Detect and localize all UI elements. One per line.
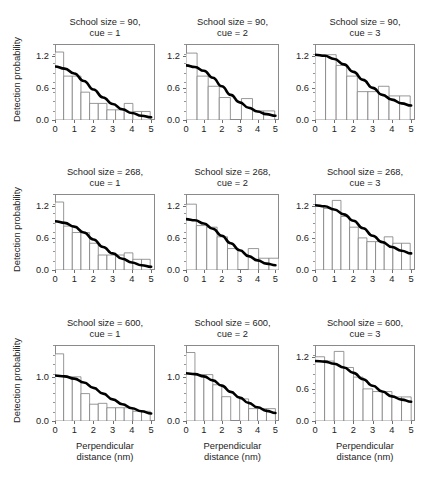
- panel-title-line1: School size = 600,: [55, 318, 155, 329]
- y-minor-tick: [313, 261, 315, 262]
- y-minor-tick: [184, 82, 186, 83]
- panel-title-line2: cue = 3: [315, 28, 415, 39]
- y-minor-tick: [184, 402, 186, 403]
- x-tick-label: 2: [91, 425, 96, 435]
- x-tick-mark: [74, 270, 75, 273]
- y-tick-label: 0.6: [275, 384, 309, 394]
- y-minor-tick: [313, 213, 315, 214]
- panel-title-line2: cue = 1: [55, 178, 155, 189]
- x-tick-label: 5: [409, 274, 414, 284]
- panel-school-600-cue-3: School size = 600,cue = 30.00.61.2012345: [275, 318, 423, 447]
- panel-title-line2: cue = 2: [186, 178, 279, 189]
- x-tick-mark: [258, 120, 259, 123]
- x-tick-mark: [392, 120, 393, 123]
- panel-title: School size = 268,cue = 1: [55, 167, 155, 189]
- y-minor-tick: [53, 54, 55, 55]
- x-tick-label: 4: [389, 274, 394, 284]
- panel-title: School size = 600,cue = 3: [315, 318, 415, 340]
- x-tick-label: 1: [332, 124, 337, 134]
- detection-function-curve: [315, 194, 415, 270]
- plot-area: [186, 194, 279, 270]
- panel-title: School size = 600,cue = 2: [186, 318, 279, 340]
- y-tick-label: 0.0: [146, 115, 180, 125]
- x-tick-mark: [74, 421, 75, 424]
- x-tick-mark: [353, 270, 354, 273]
- y-minor-tick: [313, 364, 315, 365]
- y-minor-tick: [184, 213, 186, 214]
- y-axis-label: Detection probability: [11, 187, 22, 272]
- y-minor-tick: [184, 261, 186, 262]
- curve-path: [315, 55, 411, 106]
- x-tick-label: 5: [409, 124, 414, 134]
- x-tick-mark: [353, 421, 354, 424]
- y-minor-tick: [184, 393, 186, 394]
- y-minor-tick: [53, 242, 55, 243]
- x-tick-mark: [334, 421, 335, 424]
- x-tick-mark: [258, 270, 259, 273]
- y-minor-tick: [313, 393, 315, 394]
- y-minor-tick: [184, 374, 186, 375]
- x-tick-label: 4: [255, 124, 260, 134]
- y-tick-label: 0.0: [146, 416, 180, 426]
- panel-school-600-cue-2: School size = 600,cue = 20.01.0012345: [146, 318, 287, 447]
- panel-title-line2: cue = 3: [315, 329, 415, 340]
- x-tick-label: 0: [183, 124, 188, 134]
- x-axis-label-line2: distance (nm): [186, 451, 279, 462]
- panel-title-line1: School size = 600,: [186, 318, 279, 329]
- y-tick-mark: [52, 56, 55, 57]
- y-minor-tick: [53, 355, 55, 356]
- y-tick-mark: [312, 88, 315, 89]
- x-tick-label: 4: [255, 274, 260, 284]
- y-minor-tick: [184, 355, 186, 356]
- y-minor-tick: [184, 73, 186, 74]
- x-tick-mark: [222, 270, 223, 273]
- x-tick-mark: [373, 421, 374, 424]
- y-tick-mark: [312, 56, 315, 57]
- x-axis-label: Perpendiculardistance (nm): [55, 440, 155, 463]
- panel-title: School size = 90,cue = 2: [186, 17, 279, 39]
- x-tick-label: 0: [52, 274, 57, 284]
- y-minor-tick: [313, 204, 315, 205]
- panel-title: School size = 268,cue = 3: [315, 167, 415, 189]
- x-tick-mark: [55, 120, 56, 123]
- x-tick-label: 3: [110, 425, 115, 435]
- panel-title-line1: School size = 90,: [315, 17, 415, 28]
- y-minor-tick: [313, 345, 315, 346]
- y-minor-tick: [184, 63, 186, 64]
- x-tick-mark: [55, 270, 56, 273]
- x-tick-label: 2: [91, 124, 96, 134]
- x-tick-mark: [411, 421, 412, 424]
- y-minor-tick: [184, 101, 186, 102]
- y-minor-tick: [53, 213, 55, 214]
- y-minor-tick: [313, 111, 315, 112]
- curve-path: [186, 65, 275, 115]
- x-tick-mark: [334, 120, 335, 123]
- x-tick-mark: [113, 270, 114, 273]
- y-minor-tick: [53, 73, 55, 74]
- x-tick-label: 2: [219, 425, 224, 435]
- y-tick-label: 0.6: [146, 83, 180, 93]
- y-tick-mark: [312, 238, 315, 239]
- y-minor-tick: [184, 92, 186, 93]
- panel-school-90-cue-1: School size = 90,cue = 10.00.61.2012345: [15, 17, 163, 146]
- x-tick-mark: [93, 421, 94, 424]
- detection-function-curve: [186, 345, 279, 421]
- x-tick-mark: [315, 421, 316, 424]
- y-tick-label: 0.0: [275, 265, 309, 275]
- plot-area: [55, 345, 155, 421]
- x-tick-mark: [186, 421, 187, 424]
- plot-area: [315, 44, 415, 120]
- x-tick-mark: [132, 270, 133, 273]
- x-tick-mark: [373, 270, 374, 273]
- y-tick-mark: [52, 88, 55, 89]
- x-tick-label: 0: [183, 425, 188, 435]
- x-tick-mark: [113, 120, 114, 123]
- y-tick-mark: [52, 206, 55, 207]
- y-tick-label: 0.6: [275, 233, 309, 243]
- y-minor-tick: [184, 204, 186, 205]
- x-tick-mark: [204, 421, 205, 424]
- y-minor-tick: [53, 412, 55, 413]
- panel-title-line2: cue = 2: [186, 28, 279, 39]
- x-tick-label: 4: [129, 425, 134, 435]
- y-tick-mark: [183, 206, 186, 207]
